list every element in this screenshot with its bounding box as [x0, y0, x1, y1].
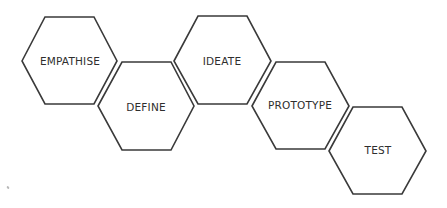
stage-label-define: DEFINE: [126, 102, 166, 113]
stage-label-test: TEST: [365, 145, 392, 156]
hexagon-layer: [0, 0, 447, 208]
stage-label-ideate: IDEATE: [203, 56, 241, 67]
stage-label-prototype: PROTOTYPE: [268, 100, 332, 111]
stage-label-empathise: EMPATHISE: [40, 56, 100, 67]
design-thinking-diagram: EMPATHISE DEFINE IDEATE PROTOTYPE TEST: [0, 0, 447, 208]
